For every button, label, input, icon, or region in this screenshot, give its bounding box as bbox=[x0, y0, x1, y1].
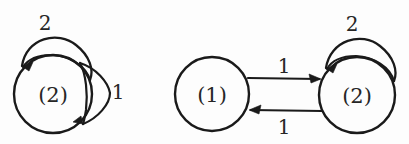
left-node-label: (2) bbox=[38, 83, 68, 107]
edge-two-to-one-arrowhead bbox=[249, 105, 261, 114]
state-diagram-figure: (2) 2 1 bbox=[0, 0, 409, 144]
figure-canvas: (2) 2 1 bbox=[0, 0, 409, 144]
edge-one-to-two-arrowhead bbox=[309, 74, 321, 83]
left-self-loop-right-label: 1 bbox=[112, 80, 125, 104]
self-loop-right-arrowhead bbox=[73, 116, 83, 124]
left-self-loop-top[interactable] bbox=[22, 38, 91, 80]
left-self-loop-top-label: 2 bbox=[39, 11, 52, 35]
right-node-one-label: (1) bbox=[197, 83, 227, 107]
edge-two-to-one-label: 1 bbox=[278, 115, 291, 139]
right-self-loop-top-label: 2 bbox=[346, 12, 359, 36]
left-diagram: (2) 2 1 bbox=[14, 11, 124, 133]
self-loop-top-path-return bbox=[23, 55, 90, 80]
edge-two-to-one-line bbox=[251, 110, 322, 111]
edge-one-to-two-label: 1 bbox=[278, 54, 291, 78]
right-diagram: (1) (2) 1 1 2 bbox=[175, 12, 395, 139]
edge-one-to-two-line bbox=[248, 78, 319, 79]
edge-two-to-one[interactable] bbox=[249, 105, 322, 114]
right-self-loop-top[interactable] bbox=[326, 39, 395, 81]
right-node-two-label: (2) bbox=[342, 84, 372, 108]
